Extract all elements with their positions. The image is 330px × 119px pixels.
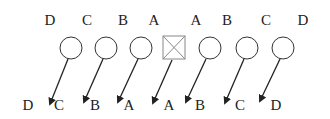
bottom-label: B xyxy=(90,97,100,113)
diagram-canvas: D C B A A B C D D C B A A B C D xyxy=(0,0,330,119)
top-label: A xyxy=(149,12,160,28)
circle-node xyxy=(130,37,152,59)
top-label: D xyxy=(298,12,309,28)
bottom-label: A xyxy=(124,97,135,113)
top-label: B xyxy=(222,12,232,28)
circle-node xyxy=(199,37,221,59)
top-label: B xyxy=(118,12,128,28)
bottom-label: D xyxy=(23,97,34,113)
bottom-label: D xyxy=(271,97,282,113)
top-label: A xyxy=(191,12,202,28)
bottom-label: B xyxy=(195,97,205,113)
circle-node xyxy=(272,37,294,59)
arrow xyxy=(186,59,206,102)
top-label: C xyxy=(261,12,271,28)
top-label: D xyxy=(45,12,56,28)
circle-node xyxy=(95,37,117,59)
bottom-label: C xyxy=(235,97,245,113)
crossed-square-node xyxy=(163,36,185,59)
arrow xyxy=(84,59,103,102)
arrow xyxy=(118,59,138,102)
bottom-label: C xyxy=(54,97,64,113)
top-label: C xyxy=(82,12,92,28)
circle-node xyxy=(236,37,258,59)
bottom-label: A xyxy=(164,97,175,113)
circle-node xyxy=(60,37,82,59)
arrow xyxy=(260,59,280,101)
